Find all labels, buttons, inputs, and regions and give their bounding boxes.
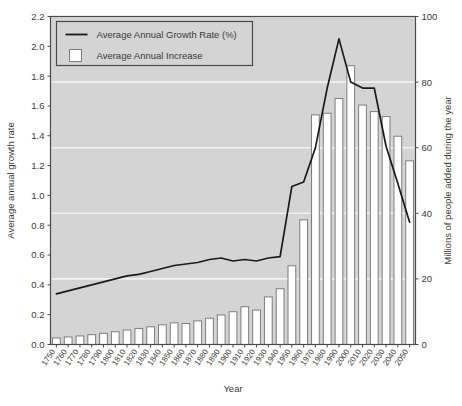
y-tick-label-left: 1.4 — [31, 130, 44, 141]
bar — [135, 328, 143, 344]
y-tick-label-left: 1.2 — [31, 160, 44, 171]
y-tick-label-right: 80 — [422, 77, 433, 88]
bar — [288, 266, 296, 345]
bar — [158, 325, 166, 345]
chart-canvas: 0.00.20.40.60.81.01.21.41.61.82.02.2Aver… — [0, 0, 462, 406]
bar — [406, 161, 414, 345]
bar — [300, 220, 308, 345]
y-tick-label-left: 0.6 — [31, 249, 44, 260]
y-tick-label-left: 1.8 — [31, 71, 44, 82]
bar — [100, 333, 108, 344]
bar — [170, 323, 178, 345]
bar — [335, 99, 343, 345]
legend-box-marker — [70, 50, 82, 62]
bar — [64, 337, 72, 345]
bar — [88, 335, 96, 345]
bar — [359, 105, 367, 344]
y-tick-label-left: 0.0 — [31, 339, 44, 350]
y-tick-label-left: 0.8 — [31, 220, 44, 231]
bar — [394, 136, 402, 344]
y-tick-label-left: 1.0 — [31, 190, 44, 201]
bar — [194, 321, 202, 345]
y-tick-label-right: 20 — [422, 273, 433, 284]
y-tick-label-left: 2.0 — [31, 41, 44, 52]
bar — [111, 332, 119, 345]
y-tick-label-left: 0.4 — [31, 279, 44, 290]
bar — [382, 117, 390, 345]
bar — [217, 315, 225, 345]
bar — [323, 113, 331, 344]
y-tick-label-right: 100 — [422, 11, 438, 22]
x-axis-title: Year — [223, 383, 242, 394]
bar — [147, 327, 155, 345]
bar — [253, 310, 261, 344]
bar — [370, 112, 378, 345]
bar — [241, 307, 249, 345]
population-growth-chart: 0.00.20.40.60.81.01.21.41.61.82.02.2Aver… — [0, 0, 462, 406]
y-tick-label-left: 2.2 — [31, 11, 44, 22]
y-tick-label-right: 0 — [422, 339, 427, 350]
y-tick-label-left: 0.2 — [31, 309, 44, 320]
bar — [53, 338, 61, 345]
bar — [264, 297, 272, 345]
bar — [182, 324, 190, 345]
y-axis-title-left: Average annual growth rate — [5, 122, 16, 239]
bar — [347, 66, 355, 345]
bar — [229, 312, 237, 345]
bar — [276, 289, 284, 345]
bar — [123, 330, 131, 344]
bar — [206, 318, 214, 344]
legend: Average Annual Growth Rate (%)Average An… — [57, 22, 253, 66]
y-axis-title-right: Millions of people added during the year — [442, 96, 453, 264]
y-tick-label-left: 1.6 — [31, 100, 44, 111]
bar — [76, 336, 84, 345]
y-tick-label-right: 40 — [422, 208, 433, 219]
legend-label: Average Annual Increase — [97, 50, 203, 61]
y-tick-label-right: 60 — [422, 142, 433, 153]
legend-label: Average Annual Growth Rate (%) — [97, 29, 237, 40]
